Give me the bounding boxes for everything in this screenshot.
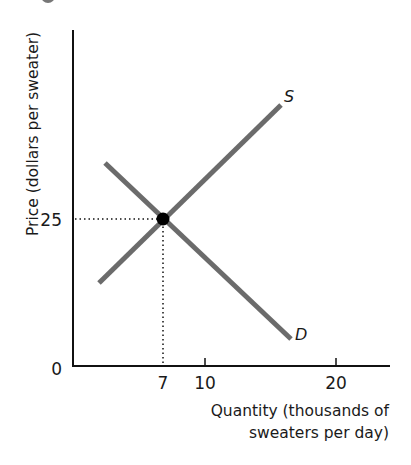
x-axis-title-line2: sweaters per day) xyxy=(249,424,389,442)
y-axis-title: Price (dollars per sweater) xyxy=(24,32,42,236)
x-tick-label-7: 7 xyxy=(158,373,169,393)
x-axis-title-line1: Quantity (thousands of xyxy=(211,402,390,420)
demand-label: D xyxy=(295,325,307,344)
equilibrium-point xyxy=(157,213,170,226)
x-tick-label-20: 20 xyxy=(325,373,347,393)
supply-demand-chart: S D 25 0 7 10 20 Quantity (thousands of … xyxy=(0,0,411,465)
supply-label: S xyxy=(284,87,294,106)
y-tick-label-25: 25 xyxy=(40,210,62,230)
cropped-marker-artifact xyxy=(41,0,55,3)
origin-label: 0 xyxy=(51,359,62,379)
x-tick-label-10: 10 xyxy=(194,373,216,393)
supply-curve xyxy=(99,105,281,283)
